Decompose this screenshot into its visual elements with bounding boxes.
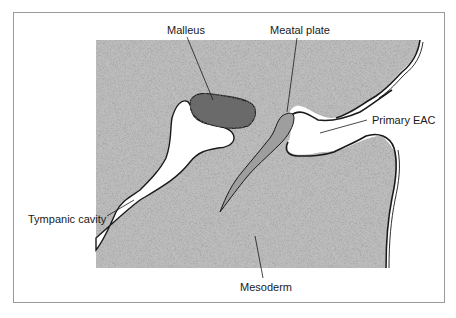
label-meatal-plate: Meatal plate	[270, 24, 330, 36]
label-malleus: Malleus	[167, 24, 205, 36]
label-mesoderm: Mesoderm	[240, 281, 292, 293]
ear-development-diagram	[0, 0, 456, 318]
label-primary-eac: Primary EAC	[372, 114, 436, 126]
label-tympanic-cavity: Tympanic cavity	[28, 213, 106, 225]
